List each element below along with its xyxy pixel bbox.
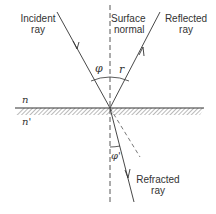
incident-ray-label: Incident ray: [18, 13, 58, 35]
angle-r-label: r: [119, 63, 124, 76]
surface-normal-label: Surface normal: [111, 13, 151, 35]
incident-ray-line: [57, 12, 110, 108]
angle-phi-prime-label: φ': [111, 150, 121, 161]
incident-arrow-icon: [73, 41, 79, 49]
angle-phi-label: φ: [95, 62, 103, 75]
index-n-label: n: [22, 94, 28, 105]
index-n-prime-label: n': [22, 116, 31, 127]
reflected-ray-label: Reflected ray: [164, 13, 208, 35]
angle-phi-prime-arc: [110, 146, 120, 147]
interface-hatch: [15, 108, 204, 115]
refracted-ray-label: Refracted ray: [135, 174, 181, 196]
